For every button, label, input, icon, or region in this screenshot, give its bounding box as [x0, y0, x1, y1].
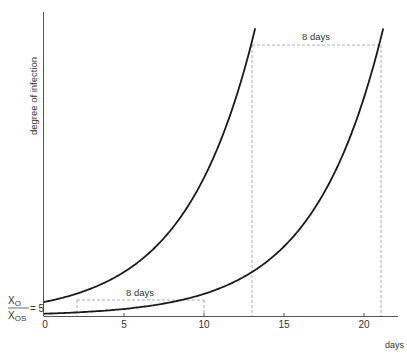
infection-curve-2: [44, 29, 383, 314]
span-label-high: 8 days: [302, 31, 330, 42]
x-tick-labels: 0 5 10 15 20: [42, 319, 370, 330]
dashed-guides: [77, 45, 381, 316]
x-tick-10: 10: [198, 319, 210, 330]
y-axis-label: degree of infection: [28, 57, 39, 135]
span-label-low: 8 days: [126, 287, 154, 298]
ratio-denominator: XOS: [8, 310, 26, 323]
ratio-value: = 5: [30, 303, 45, 314]
x-axis-label: days: [385, 340, 405, 350]
x-tick-15: 15: [278, 319, 290, 330]
ratio-numerator: XO: [8, 295, 21, 308]
ratio-label: XO XOS = 5: [8, 295, 45, 323]
infection-curve-1: [44, 28, 255, 302]
x-ticks: [124, 313, 364, 316]
chart: 0 5 10 15 20 days degree of infection XO…: [0, 0, 407, 356]
x-tick-20: 20: [358, 319, 370, 330]
x-tick-0: 0: [42, 319, 48, 330]
x-tick-5: 5: [121, 319, 127, 330]
